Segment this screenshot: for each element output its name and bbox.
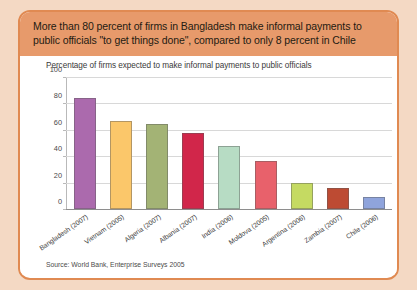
bar[interactable] bbox=[291, 183, 313, 209]
plot-area: 020406080100 bbox=[66, 78, 392, 210]
bar[interactable] bbox=[74, 98, 96, 209]
bar-slot bbox=[67, 78, 103, 209]
y-axis-tick-label: 20 bbox=[54, 170, 62, 179]
y-axis-tick-mark bbox=[63, 183, 66, 184]
y-axis-tick-label: 40 bbox=[54, 144, 62, 153]
y-axis-tick-mark bbox=[63, 77, 66, 78]
bar-series bbox=[67, 78, 392, 209]
bar-slot bbox=[284, 78, 320, 209]
callout-header: More than 80 percent of firms in Banglad… bbox=[20, 12, 397, 56]
y-axis-tick-label: 80 bbox=[54, 91, 62, 100]
y-axis-tick-mark bbox=[63, 209, 66, 210]
bar[interactable] bbox=[255, 161, 277, 209]
source-note: Source: World Bank, Enterprise Surveys 2… bbox=[46, 261, 185, 268]
bar-slot bbox=[320, 78, 356, 209]
bar[interactable] bbox=[327, 188, 349, 209]
x-axis-labels: Bangladesh (2007)Vietnam (2005)Algeria (… bbox=[67, 211, 393, 261]
x-label-slot: Chile (2006) bbox=[357, 211, 393, 261]
chart-title: Percentage of firms expected to make inf… bbox=[46, 61, 312, 70]
bar-slot bbox=[211, 78, 247, 209]
bar-slot bbox=[356, 78, 392, 209]
bar[interactable] bbox=[363, 197, 385, 209]
bar[interactable] bbox=[218, 146, 240, 209]
bar[interactable] bbox=[110, 121, 132, 209]
bar-slot bbox=[103, 78, 139, 209]
bar-slot bbox=[139, 78, 175, 209]
bar[interactable] bbox=[182, 133, 204, 209]
chart-panel: Percentage of firms expected to make inf… bbox=[20, 56, 397, 275]
y-axis-tick-label: 60 bbox=[54, 117, 62, 126]
y-axis-tick-label: 0 bbox=[58, 197, 62, 206]
gridline bbox=[66, 209, 392, 210]
y-axis-tick-mark bbox=[63, 103, 66, 104]
y-axis-tick-label: 100 bbox=[50, 65, 62, 74]
x-axis-tick-label: Bangladesh (2007) bbox=[38, 213, 89, 252]
figure-card: More than 80 percent of firms in Banglad… bbox=[18, 10, 399, 280]
y-axis-tick-mark bbox=[63, 130, 66, 131]
bar-slot bbox=[248, 78, 284, 209]
bar-slot bbox=[175, 78, 211, 209]
bar[interactable] bbox=[146, 124, 168, 209]
y-axis-tick-mark bbox=[63, 156, 66, 157]
